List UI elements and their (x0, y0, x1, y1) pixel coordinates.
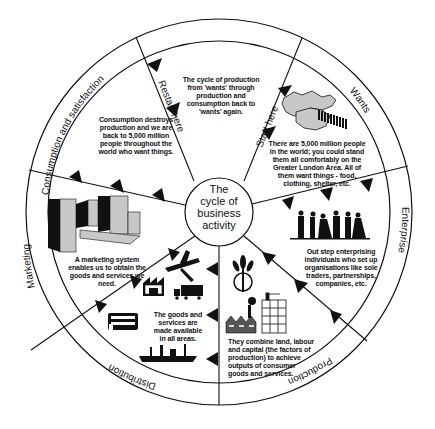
production-description: They combine land, labour and capital (t… (228, 338, 316, 378)
cycle-description: The cycle of production from 'wants' thr… (178, 76, 264, 116)
ring-label-wants: Wants (348, 85, 373, 114)
people-silhouettes-icon (290, 211, 370, 240)
center-title-line: business (189, 207, 249, 219)
production-icons (226, 255, 286, 333)
center-title-line: activity (189, 219, 249, 231)
wants-description: There are 5,000 million people in the wo… (268, 140, 366, 188)
center-title: The cycle of business activity (189, 183, 249, 231)
london-map-icon (282, 91, 347, 130)
center-title-line: cycle of (189, 195, 249, 207)
warehouse-icon (143, 277, 164, 296)
factory-icon (226, 297, 256, 333)
ring-label-distribution: Distribution (106, 362, 157, 392)
truck-icon (174, 285, 203, 300)
shop-buildings-icon (48, 196, 140, 252)
cargo-ship-icon (139, 344, 197, 362)
office-building-icon (262, 293, 286, 333)
center-title-line: The (189, 183, 249, 195)
marketing-description: A marketing system enables us to obtain … (68, 256, 146, 288)
consumption-description: Consumption destroys production and we a… (96, 116, 176, 156)
bus-icon (108, 313, 138, 330)
distribution-description: The goods and services are made availabl… (150, 311, 206, 343)
wheat-icon (231, 255, 255, 292)
enterprise-description: Out step enterprising individuals who se… (302, 248, 380, 288)
